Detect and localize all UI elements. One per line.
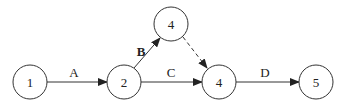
node-1: 1 xyxy=(13,65,47,99)
node-1-label: 1 xyxy=(27,75,34,90)
node-3-label: 4 xyxy=(168,17,175,32)
edge-d-label: D xyxy=(260,65,269,80)
edge-dummy xyxy=(183,37,207,68)
node-3: 4 xyxy=(154,7,188,41)
network-diagram: A B C D 1 2 4 4 5 xyxy=(0,0,343,105)
edge-b-label: B xyxy=(137,44,146,59)
edge-a-label: A xyxy=(69,65,79,80)
edge-c-label: C xyxy=(167,65,176,80)
node-4: 4 xyxy=(202,65,236,99)
node-5-label: 5 xyxy=(313,75,320,90)
node-2-label: 2 xyxy=(121,75,128,90)
node-5: 5 xyxy=(299,65,333,99)
node-2: 2 xyxy=(107,65,141,99)
node-4-label: 4 xyxy=(216,75,223,90)
